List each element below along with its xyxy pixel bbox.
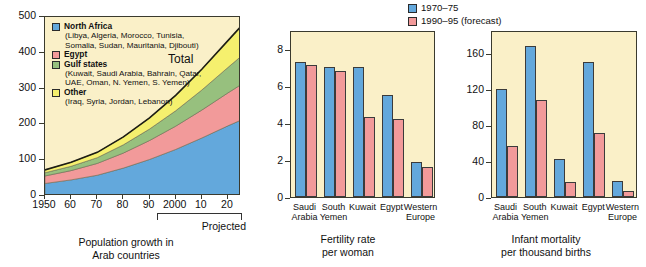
bar-south-yemen-series2 — [536, 100, 547, 197]
mortality-y-tick-label: 120 — [446, 83, 484, 95]
mortality-y-tick-label: 80 — [446, 119, 484, 131]
legend-item-other: Other — [52, 88, 206, 97]
legend-item-north-africa: North Africa — [52, 22, 206, 31]
fertility-y-tick-mark — [285, 198, 290, 199]
legend-swatch-other-icon — [52, 89, 60, 97]
legend-detail-gulf-states: (Kuwait, Saudi Arabia, Bahrain, Qatar, U… — [52, 69, 206, 88]
legend-swatch-gulf-states-icon — [52, 61, 60, 69]
legend-detail-other: (Iraq, Syria, Jordan, Lebanon) — [52, 97, 206, 106]
area-y-tick-label: 300 — [0, 81, 36, 93]
category-label-line2: Europe — [596, 212, 646, 222]
area-x-tick-mark — [201, 195, 202, 199]
area-x-tick-mark — [96, 195, 97, 199]
bar-kuwait-series2 — [364, 117, 375, 197]
area-y-tick-mark — [39, 88, 44, 89]
bar-egypt-series1 — [382, 95, 393, 197]
mortality-y-tick-mark — [486, 198, 491, 199]
category-label-line2: Yemen — [308, 212, 360, 222]
bar-saudi-arabia-series1 — [295, 62, 306, 197]
fertility-y-tick-label: 2 — [250, 154, 283, 166]
population-growth-chart: 0100200300400500 19506070809020001020 No… — [0, 0, 250, 267]
area-y-tick-mark — [39, 159, 44, 160]
mortality-plot-region — [491, 31, 637, 198]
legend-label-other: Other — [64, 88, 86, 97]
projected-label: Projected — [160, 220, 246, 232]
bar-kuwait-series2 — [565, 182, 576, 197]
mortality-caption-line2: per thousand births — [450, 246, 642, 259]
bar-western-europe-series1 — [612, 181, 623, 197]
bar-egypt-series1 — [583, 62, 594, 197]
bar-western-europe-series2 — [623, 191, 634, 197]
bar-egypt-series2 — [393, 119, 404, 197]
area-total-label: Total — [168, 52, 193, 66]
category-label-western-europe: WesternEurope — [596, 202, 646, 222]
area-y-tick-mark — [39, 52, 44, 53]
fertility-y-tick-mark — [285, 50, 290, 51]
projected-bracket — [157, 213, 242, 220]
area-caption-line2: Arab countries — [10, 249, 242, 262]
category-label-western-europe: WesternEurope — [395, 202, 447, 222]
bar-saudi-arabia-series2 — [306, 65, 317, 197]
category-label-line2: Europe — [395, 212, 447, 222]
fertility-y-tick-mark — [285, 124, 290, 125]
legend-swatch-egypt-icon — [52, 51, 60, 59]
fertility-y-tick-label: 6 — [250, 80, 283, 92]
mortality-y-tick-mark — [486, 90, 491, 91]
fertility-y-tick-label: 8 — [250, 43, 283, 55]
mortality-y-tick-label: 0 — [446, 191, 484, 203]
bar-saudi-arabia-series2 — [507, 146, 518, 197]
bar-egypt-series2 — [594, 133, 605, 197]
area-x-tick-mark — [122, 195, 123, 199]
legend-label-gulf-states: Gulf states — [64, 60, 107, 69]
fertility-y-tick-mark — [285, 161, 290, 162]
mortality-y-tick-label: 40 — [446, 155, 484, 167]
legend-detail-north-africa: (Libya, Algeria, Morocco, Tunisia, Somal… — [52, 31, 206, 50]
mortality-y-tick-mark — [486, 54, 491, 55]
area-y-tick-label: 400 — [0, 45, 36, 57]
area-caption-line1: Population growth in — [10, 236, 242, 249]
infant-mortality-chart: 04080120160 SaudiArabiaSouthYemenKuwaitE… — [446, 0, 646, 267]
bar-south-yemen-series1 — [324, 67, 335, 197]
bar-western-europe-series2 — [422, 167, 433, 197]
bar-western-europe-series1 — [411, 162, 422, 197]
area-x-tick-label: 20 — [205, 199, 249, 211]
area-x-tick-mark — [149, 195, 150, 199]
mortality-y-tick-mark — [486, 162, 491, 163]
fertility-plot-region — [290, 31, 435, 198]
area-x-tick-mark — [44, 195, 45, 199]
bar-kuwait-series1 — [554, 159, 565, 197]
category-label-line1: Western — [395, 202, 447, 212]
bar-kuwait-series1 — [353, 67, 364, 197]
area-y-tick-label: 100 — [0, 152, 36, 164]
fertility-caption-line1: Fertility rate — [256, 233, 440, 246]
fertility-caption-line2: per woman — [256, 246, 440, 259]
area-y-tick-mark — [39, 123, 44, 124]
area-y-tick-label: 500 — [0, 9, 36, 21]
bar-south-yemen-series1 — [525, 46, 536, 197]
mortality-y-tick-mark — [486, 126, 491, 127]
mortality-caption-line1: Infant mortality — [450, 233, 642, 246]
legend-swatch-north-africa-icon — [52, 23, 60, 31]
area-x-tick-mark — [227, 195, 228, 199]
area-caption: Population growth in Arab countries — [10, 236, 242, 261]
area-x-tick-mark — [175, 195, 176, 199]
legend-label-north-africa: North Africa — [64, 22, 112, 31]
category-label-line2: Yemen — [509, 212, 561, 222]
category-label-line1: Western — [596, 202, 646, 212]
fertility-caption: Fertility rate per woman — [256, 233, 440, 258]
area-x-tick-mark — [70, 195, 71, 199]
mortality-y-tick-label: 160 — [446, 47, 484, 59]
bar-saudi-arabia-series1 — [496, 89, 507, 197]
fertility-y-tick-label: 4 — [250, 117, 283, 129]
area-y-tick-mark — [39, 16, 44, 17]
mortality-caption: Infant mortality per thousand births — [450, 233, 642, 258]
figure-root: 0100200300400500 19506070809020001020 No… — [0, 0, 646, 267]
fertility-rate-chart: 02468 SaudiArabiaSouthYemenKuwaitEgyptWe… — [250, 0, 446, 267]
area-y-tick-label: 200 — [0, 116, 36, 128]
fertility-y-tick-mark — [285, 87, 290, 88]
bar-south-yemen-series2 — [335, 71, 346, 197]
